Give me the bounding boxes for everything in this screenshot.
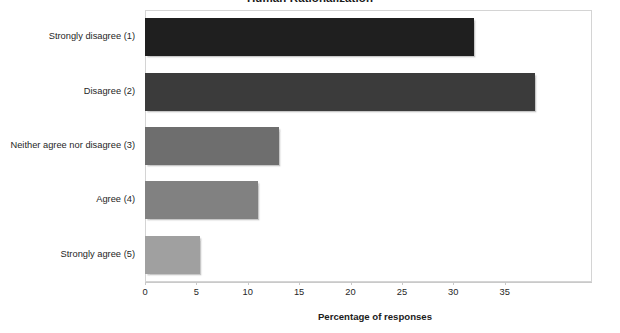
chart-title: Human Rationalization — [0, 0, 620, 5]
bar — [145, 181, 258, 219]
x-axis-tick-label: 5 — [181, 287, 211, 297]
x-axis-tick — [402, 282, 403, 285]
bar-row — [145, 228, 592, 282]
bar — [145, 127, 279, 165]
bar — [145, 236, 200, 274]
x-axis-tick-label: 30 — [438, 287, 468, 297]
x-axis-tick — [196, 282, 197, 285]
bar-row — [145, 10, 592, 64]
x-axis-tick — [453, 282, 454, 285]
x-axis-tick-label: 10 — [233, 287, 263, 297]
x-axis-tick — [248, 282, 249, 285]
y-axis-label: Strongly agree (5) — [0, 249, 135, 260]
y-axis-label: Agree (4) — [0, 194, 135, 205]
x-axis-tick — [145, 282, 146, 285]
bar-row — [145, 64, 592, 118]
y-axis-labels: Strongly disagree (1)Disagree (2)Neither… — [0, 10, 140, 282]
x-axis-tick-label: 0 — [130, 287, 160, 297]
x-axis-line — [145, 282, 592, 283]
x-axis-tick — [299, 282, 300, 285]
x-axis-tick-label: 15 — [284, 287, 314, 297]
x-axis-tick-label: 25 — [387, 287, 417, 297]
x-axis-tick — [351, 282, 352, 285]
bar-row — [145, 173, 592, 227]
y-axis-label: Disagree (2) — [0, 86, 135, 97]
x-axis-title: Percentage of responses — [0, 311, 620, 322]
bar-row — [145, 119, 592, 173]
x-axis-tick-label: 20 — [336, 287, 366, 297]
y-axis-label: Strongly disagree (1) — [0, 31, 135, 42]
bar — [145, 18, 474, 56]
y-axis-label: Neither agree nor disagree (3) — [0, 140, 135, 151]
x-axis-tick-label: 35 — [490, 287, 520, 297]
x-axis-tick — [505, 282, 506, 285]
bar — [145, 73, 535, 111]
bar-series — [145, 10, 592, 282]
